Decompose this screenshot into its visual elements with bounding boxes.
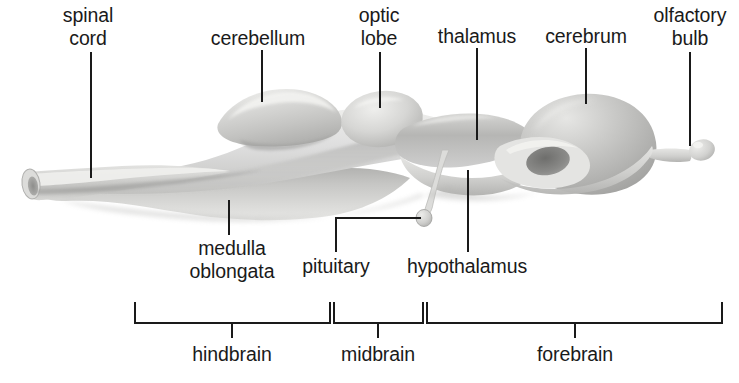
label-optic-lobe: optic lobe — [359, 4, 400, 50]
brain-anatomy-diagram: spinal cord cerebellum optic lobe thalam… — [0, 0, 739, 383]
label-cerebellum: cerebellum — [211, 27, 305, 50]
region-brackets — [135, 302, 722, 338]
leader-pituitary — [336, 218, 421, 252]
label-olfactory-bulb: olfactory bulb — [654, 4, 727, 50]
label-forebrain: forebrain — [537, 343, 613, 366]
label-cerebrum: cerebrum — [545, 25, 627, 48]
diagram-canvas — [0, 0, 739, 383]
bracket-midbrain — [334, 302, 423, 323]
label-medulla-oblongata: medulla oblongata — [190, 237, 275, 283]
label-midbrain: midbrain — [341, 343, 415, 366]
olfactory-bulb-highlight — [693, 142, 703, 148]
olfactory-tract — [650, 149, 692, 163]
bracket-forebrain — [427, 302, 722, 323]
label-thalamus: thalamus — [438, 25, 516, 48]
olfactory-bulb-shape — [687, 137, 717, 163]
brain-illustration — [20, 86, 717, 226]
label-hindbrain: hindbrain — [192, 343, 271, 366]
label-hypothalamus: hypothalamus — [407, 255, 527, 278]
label-spinal-cord: spinal cord — [63, 4, 113, 50]
label-pituitary: pituitary — [302, 255, 369, 278]
bracket-hindbrain — [135, 302, 330, 323]
